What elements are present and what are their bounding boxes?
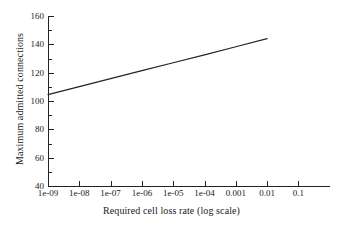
data-line-layer: [0, 0, 343, 229]
series-line-maximum-admitted-connections: [48, 39, 267, 95]
x-axis-title: Required cell loss rate (log scale): [0, 205, 343, 216]
chart-figure: Maximum admitted connections 40608010012…: [0, 0, 343, 229]
